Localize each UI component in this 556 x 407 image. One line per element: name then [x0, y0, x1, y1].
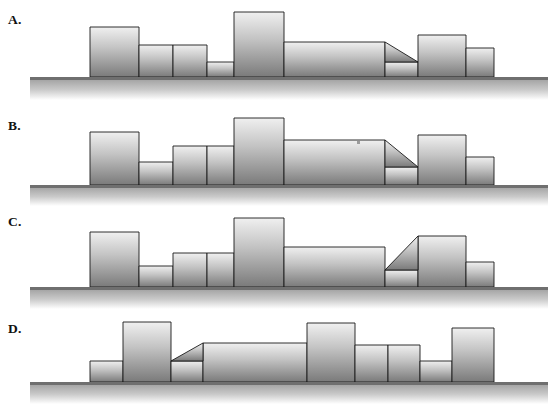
block	[139, 162, 173, 185]
block	[90, 361, 123, 382]
panel-c: C.	[0, 205, 556, 310]
block	[207, 253, 234, 287]
ground-line	[30, 77, 548, 80]
block	[385, 167, 418, 185]
block	[418, 35, 466, 77]
slope-descending	[385, 42, 418, 62]
slope-ascending	[171, 343, 203, 361]
stray-mark	[357, 141, 360, 144]
panel-d-canvas	[0, 305, 556, 407]
ground-line	[30, 287, 548, 290]
slope-descending	[385, 140, 418, 167]
block	[173, 146, 207, 185]
block	[466, 48, 494, 77]
block	[284, 42, 385, 77]
block	[355, 345, 388, 382]
ground-line	[30, 382, 548, 385]
block	[418, 236, 466, 287]
block	[173, 253, 207, 287]
figure-root: A. B. C. D.	[0, 0, 556, 407]
block	[139, 266, 173, 287]
slope-ascending	[385, 236, 418, 270]
ground-plane	[30, 185, 548, 206]
panel-c-canvas	[0, 205, 556, 310]
panel-a: A.	[0, 0, 556, 110]
block	[203, 343, 307, 382]
panel-b: B.	[0, 110, 556, 208]
ground-line	[30, 185, 548, 188]
panel-a-canvas	[0, 0, 556, 110]
block	[418, 135, 466, 185]
block	[466, 157, 494, 185]
panel-d: D.	[0, 305, 556, 407]
block	[307, 323, 355, 382]
block	[234, 218, 284, 287]
block	[385, 62, 418, 77]
block	[207, 62, 234, 77]
block	[284, 140, 385, 185]
block	[139, 45, 173, 77]
block	[234, 118, 284, 185]
block	[171, 361, 203, 382]
block	[90, 27, 139, 77]
block	[234, 12, 284, 77]
block	[388, 345, 420, 382]
block	[90, 132, 139, 185]
block	[385, 270, 418, 287]
block	[466, 262, 494, 287]
block	[90, 232, 139, 287]
block	[420, 361, 452, 382]
block	[173, 45, 207, 77]
ground-plane	[30, 382, 548, 404]
block	[123, 322, 171, 382]
block	[452, 328, 494, 382]
block	[284, 247, 385, 287]
ground-plane	[30, 77, 548, 100]
block	[207, 146, 234, 185]
panel-b-canvas	[0, 110, 556, 208]
